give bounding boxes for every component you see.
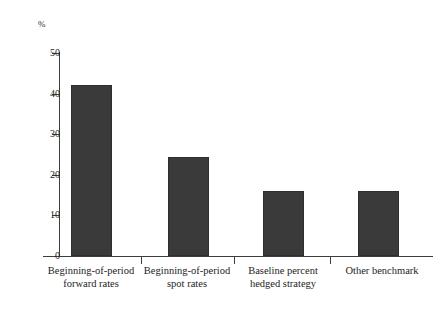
y-axis-unit-label: % (38, 19, 46, 30)
bar-beginning-of-period-spot-rates[interactable] (168, 157, 209, 256)
x-separator-tick-2 (234, 257, 235, 264)
y-tick-label-50: 50 (20, 48, 60, 58)
x-separator-tick-1 (141, 257, 142, 264)
x-axis-line (43, 256, 433, 257)
y-tick-label-0: 0 (20, 251, 60, 261)
y-tick-label-20: 20 (20, 170, 60, 180)
x-axis-label-beginning-of-period-forward-rates: Beginning-of-period forward rates (41, 264, 141, 290)
x-axis-label-baseline-percent-hedged-strategy: Baseline percent hedged strategy (236, 264, 330, 290)
x-separator-tick-3 (330, 257, 331, 264)
bar-baseline-percent-hedged-strategy[interactable] (263, 191, 304, 256)
bar-beginning-of-period-forward-rates[interactable] (71, 85, 112, 256)
y-tick-label-40: 40 (20, 89, 60, 99)
plot-area (59, 53, 433, 256)
bar-other-benchmark[interactable] (358, 191, 399, 256)
bar-chart-figure: % 50 40 30 20 10 0 Beginning-of-period f… (0, 0, 445, 310)
x-axis-label-beginning-of-period-spot-rates: Beginning-of-period spot rates (139, 264, 235, 290)
y-tick-label-10: 10 (20, 210, 60, 220)
x-axis-label-other-benchmark: Other benchmark (331, 264, 433, 277)
y-tick-label-30: 30 (20, 129, 60, 139)
